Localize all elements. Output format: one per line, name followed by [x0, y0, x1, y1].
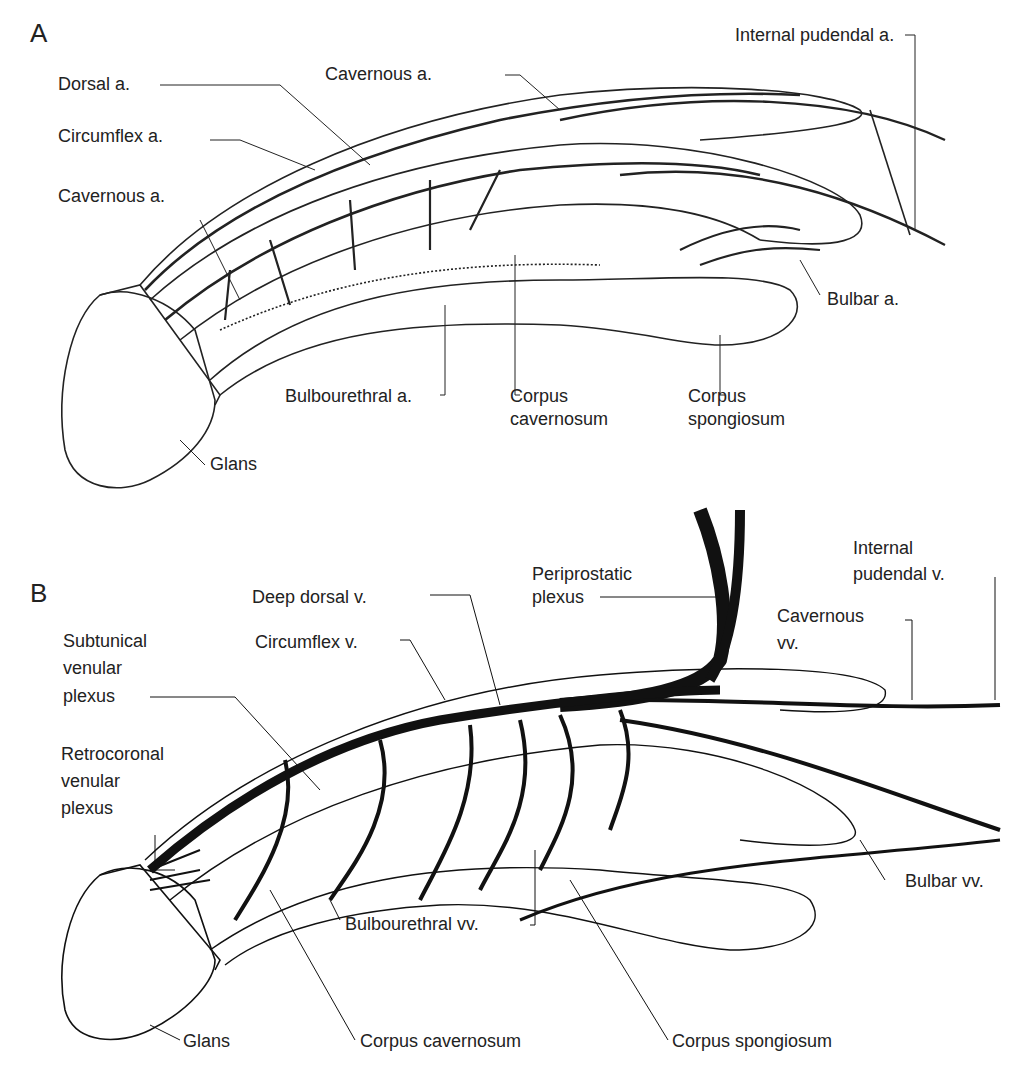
label-retrocoronal-1: Retrocoronal: [61, 743, 164, 765]
label-circumflex-artery: Circumflex a.: [58, 125, 163, 147]
panel-a-drawing: [62, 35, 945, 488]
anatomy-illustration: [0, 0, 1018, 1067]
label-internal-pudendal-v-1: Internal: [853, 537, 913, 559]
label-glans-a: Glans: [210, 453, 257, 475]
label-subtunical-2: venular: [63, 657, 122, 679]
label-subtunical-3: plexus: [63, 685, 115, 707]
label-glans-b: Glans: [183, 1030, 230, 1052]
label-subtunical-1: Subtunical: [63, 630, 147, 652]
label-cavernous-vv-1: Cavernous: [777, 605, 864, 627]
label-retrocoronal-2: venular: [61, 770, 120, 792]
label-corpus-spongiosum-b: Corpus spongiosum: [672, 1030, 832, 1052]
label-corpus-cavernosum-a-2: cavernosum: [510, 408, 608, 430]
label-corpus-spongiosum-a-2: spongiosum: [688, 408, 785, 430]
panel-a-letter: A: [30, 18, 47, 49]
label-deep-dorsal-vein: Deep dorsal v.: [252, 586, 367, 608]
label-internal-pudendal-v-2: pudendal v.: [853, 563, 945, 585]
panel-b-drawing: [62, 510, 1000, 1040]
label-dorsal-artery: Dorsal a.: [58, 73, 130, 95]
label-cavernous-artery-top: Cavernous a.: [325, 63, 432, 85]
label-cavernous-artery-left: Cavernous a.: [58, 185, 165, 207]
label-bulbar-veins: Bulbar vv.: [905, 870, 984, 892]
label-periprostatic-2: plexus: [532, 586, 584, 608]
panel-b-letter: B: [30, 578, 47, 609]
label-corpus-spongiosum-a-1: Corpus: [688, 385, 746, 407]
label-periprostatic-1: Periprostatic: [532, 563, 632, 585]
label-corpus-cavernosum-a-1: Corpus: [510, 385, 568, 407]
label-bulbourethral-artery: Bulbourethral a.: [285, 385, 412, 407]
label-corpus-cavernosum-b: Corpus cavernosum: [360, 1030, 521, 1052]
label-cavernous-vv-2: vv.: [777, 632, 799, 654]
label-bulbourethral-veins: Bulbourethral vv.: [345, 913, 479, 935]
label-retrocoronal-3: plexus: [61, 797, 113, 819]
label-bulbar-artery: Bulbar a.: [827, 288, 899, 310]
label-circumflex-vein: Circumflex v.: [255, 631, 358, 653]
label-internal-pudendal-artery: Internal pudendal a.: [735, 24, 894, 46]
